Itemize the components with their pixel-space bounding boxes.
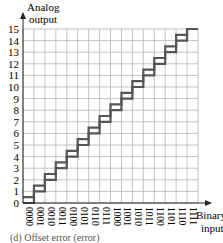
x-tick-label: 0110 (90, 207, 100, 226)
x-tick-label: 1110 (177, 207, 187, 226)
y-tick-label: 12 (8, 58, 19, 70)
x-tick-label: 0010 (46, 207, 56, 226)
x-tick-label: 1011 (144, 207, 154, 226)
x-tick-label: 1100 (155, 207, 165, 226)
x-tick-label: 1010 (133, 207, 143, 226)
x-tick-label: 0001 (35, 207, 45, 226)
x-tick-label: 1000 (112, 207, 122, 226)
y-tick-label: 15 (8, 23, 20, 35)
x-axis-label-line2: input (201, 222, 223, 234)
y-tick-label: 5 (14, 139, 20, 151)
y-tick-label: 11 (8, 69, 19, 81)
y-tick-label: 3 (14, 162, 20, 174)
y-axis-label-line1: Analog (27, 1, 60, 13)
figure-caption: (d) Offset error (error) (10, 232, 100, 243)
y-tick-label: 4 (14, 151, 20, 163)
y-tick-label: 13 (8, 46, 20, 58)
x-tick-label: 0011 (57, 207, 67, 226)
x-axis-label-line1: Binary (196, 209, 223, 221)
y-axis-arrow-icon (20, 12, 26, 19)
x-tick-labels: 0000000100100011010001010110011110001001… (24, 207, 198, 226)
y-tick-label: 14 (8, 35, 20, 47)
y-tick-label: 1 (14, 185, 20, 197)
x-tick-label: 1101 (166, 207, 176, 226)
y-tick-label: 0 (14, 197, 20, 209)
y-tick-labels: 0123456789101112131415 (8, 23, 20, 209)
x-tick-label: 0101 (79, 207, 89, 226)
x-tick-label: 0100 (68, 207, 78, 226)
x-tick-label: 0000 (24, 207, 34, 226)
y-tick-label: 6 (14, 127, 20, 139)
y-tick-label: 2 (14, 174, 20, 186)
y-tick-label: 9 (14, 93, 20, 105)
x-tick-label: 1001 (122, 207, 132, 226)
x-axis-arrow-icon (205, 200, 212, 206)
y-tick-label: 10 (8, 81, 20, 93)
y-tick-label: 8 (14, 104, 20, 116)
y-axis-label-line2: output (29, 13, 57, 25)
x-tick-label: 0111 (101, 207, 111, 226)
y-tick-label: 7 (14, 116, 20, 128)
